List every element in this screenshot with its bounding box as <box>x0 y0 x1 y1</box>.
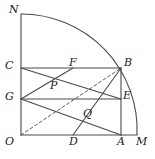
vertex-label-c: C <box>5 60 13 71</box>
segments-group <box>21 14 137 135</box>
vertex-label-q: Q <box>83 108 92 119</box>
vertex-label-m: M <box>136 136 147 147</box>
vertex-label-p: P <box>50 80 57 91</box>
geometry-figure: NCFBPGEQODAM <box>0 0 155 159</box>
segment-D-B <box>73 68 121 135</box>
vertex-label-n: N <box>9 4 19 15</box>
segment-G-F <box>21 68 73 99</box>
quarter-circle-arc <box>21 14 137 135</box>
segment-O-B <box>21 68 121 135</box>
vertex-label-o: O <box>5 136 14 147</box>
vertex-label-f: F <box>69 57 77 68</box>
vertex-label-g: G <box>5 91 14 102</box>
segment-G-A <box>21 99 121 135</box>
quarter-circle-arc-group <box>21 14 137 135</box>
vertex-label-b: B <box>124 57 132 68</box>
vertex-label-a: A <box>117 136 125 147</box>
segment-C-E <box>21 68 121 99</box>
vertex-label-e: E <box>123 90 131 101</box>
vertex-label-d: D <box>69 136 78 147</box>
